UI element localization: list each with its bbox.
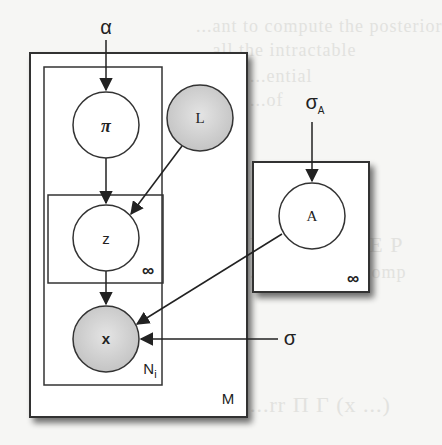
- label-sigma: σ: [284, 328, 296, 348]
- label-A: A: [307, 209, 318, 224]
- label-alpha: α: [100, 17, 112, 37]
- plate-label-Ni: Ni: [143, 361, 156, 380]
- plate-Ni-symbol: N: [143, 360, 154, 377]
- label-pi: π: [101, 117, 111, 135]
- plate-Ni-subscript: i: [154, 368, 156, 380]
- plate-label-infinity-A: ∞: [347, 270, 359, 287]
- plate-label-M: M: [222, 391, 235, 406]
- label-sigma-A: σA: [305, 92, 324, 116]
- label-L: L: [195, 111, 204, 126]
- sigma-A-subscript: A: [318, 105, 325, 116]
- sigma-A-symbol: σ: [305, 91, 317, 113]
- plate-label-infinity-z: ∞: [142, 262, 154, 279]
- label-x: x: [102, 331, 110, 346]
- label-z: z: [102, 231, 110, 246]
